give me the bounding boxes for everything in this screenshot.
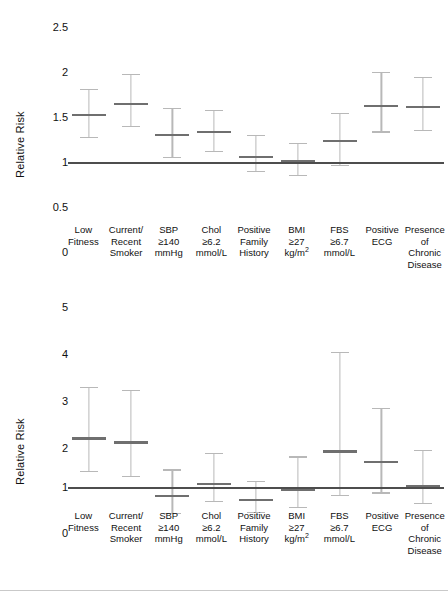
errorbar-whisker: [381, 72, 382, 131]
top-chart-category-family-history: PositiveFamilyHistory: [233, 224, 276, 259]
top-chart-ytick-2.5: 2.5: [34, 22, 68, 33]
errorbar-upper-cap: [80, 89, 98, 90]
category-line-1: Low: [62, 510, 105, 522]
category-line-1: BMI: [275, 510, 318, 522]
bottom-chart-category-labels: LowFitnessCurrent/RecentSmokerSBP≥140mmH…: [62, 510, 446, 556]
errorbar-lower-cap: [205, 151, 223, 152]
bottom-chart-ytick-1: 1: [34, 482, 68, 493]
errorbar-point-estimate: [197, 483, 231, 485]
errorbar-whisker: [214, 453, 215, 500]
category-line-2: Recent: [105, 236, 148, 248]
bottom-chart-plot-area: [68, 292, 444, 542]
top-chart-category-fbs: FBS≥6.7mmol/L: [318, 224, 361, 259]
errorbar-upper-cap: [289, 456, 307, 457]
errorbar-point-estimate: [114, 441, 148, 443]
top-chart-category-chol: Chol≥6.2mmol/L: [190, 224, 233, 259]
errorbar-lower-cap: [331, 495, 349, 496]
category-line-3: mmol/L: [190, 533, 233, 545]
category-line-2: ≥6.2: [190, 236, 233, 248]
errorbar-lower-cap: [247, 171, 265, 172]
category-line-2: of Chronic: [403, 236, 446, 259]
errorbar-lower-cap: [122, 126, 140, 127]
errorbar-upper-cap: [247, 481, 265, 482]
category-line-3: History: [233, 247, 276, 259]
category-line-3: mmol/L: [190, 247, 233, 259]
errorbar-whisker: [255, 135, 256, 171]
errorbar-upper-cap: [205, 453, 223, 454]
errorbar-lower-cap: [372, 492, 390, 493]
errorbar-upper-cap: [414, 450, 432, 451]
top-chart-category-chronic-disease: Presenceof ChronicDisease: [403, 224, 446, 270]
errorbar-upper-cap: [163, 469, 181, 470]
category-line-3: Smoker: [105, 247, 148, 259]
top-chart-category-low-fitness: LowFitness: [62, 224, 105, 247]
errorbar-lower-cap: [372, 131, 390, 132]
bottom-chart-ytick-5: 5: [34, 302, 68, 313]
errorbar-upper-cap: [80, 387, 98, 388]
errorbar-upper-cap: [372, 408, 390, 409]
category-line-2: ≥27: [275, 522, 318, 534]
category-line-2: ≥6.7: [318, 522, 361, 534]
errorbar-whisker: [381, 408, 382, 493]
top-chart-category-labels: LowFitnessCurrent/RecentSmokerSBP≥140mmH…: [62, 224, 446, 270]
errorbar-lower-cap: [289, 175, 307, 176]
errorbar-point-estimate: [197, 131, 231, 133]
category-line-3: Disease: [403, 545, 446, 557]
category-line-1: Presence: [403, 510, 446, 522]
category-line-1: Current/: [105, 510, 148, 522]
top-chart-y-axis-label: Relative Risk: [14, 90, 26, 200]
category-line-1: Low: [62, 224, 105, 236]
category-line-3: History: [233, 533, 276, 545]
top-chart-ytick-2: 2: [34, 67, 68, 78]
category-line-1: FBS: [318, 224, 361, 236]
bottom-chart-reference-line: [68, 487, 444, 489]
errorbar-lower-cap: [122, 476, 140, 477]
bottom-chart-category-chronic-disease: Presenceof ChronicDisease: [403, 510, 446, 556]
errorbar-whisker: [172, 469, 173, 513]
category-superscript: 2: [305, 532, 309, 539]
errorbar-point-estimate: [323, 450, 357, 452]
errorbar-upper-cap: [289, 143, 307, 144]
errorbar-point-estimate: [72, 437, 106, 439]
category-line-1: Chol: [190, 510, 233, 522]
errorbar-point-estimate: [155, 134, 189, 136]
category-line-2: ECG: [361, 522, 404, 534]
errorbar-whisker: [130, 390, 131, 476]
top-chart-category-bmi: BMI≥27kg/m2: [275, 224, 318, 259]
errorbar-point-estimate: [155, 495, 189, 497]
bottom-chart-ytick-2: 2: [34, 443, 68, 454]
errorbar-upper-cap: [163, 108, 181, 109]
category-line-1: FBS: [318, 510, 361, 522]
errorbar-whisker: [297, 456, 298, 507]
errorbar-whisker: [255, 481, 256, 512]
errorbar-point-estimate: [364, 461, 398, 463]
errorbar-whisker: [297, 143, 298, 175]
errorbar-upper-cap: [247, 135, 265, 136]
category-line-2: ≥140: [147, 236, 190, 248]
errorbar-point-estimate: [239, 499, 273, 501]
top-chart: Relative Risk 2.5 2 1.5 1 0.5 0 LowFitne…: [0, 0, 448, 290]
errorbar-whisker: [88, 89, 89, 137]
errorbar-whisker: [339, 113, 340, 165]
top-chart-ytick-1.5: 1.5: [34, 112, 68, 123]
errorbar-point-estimate: [281, 489, 315, 491]
top-chart-ytick-0.5: 0.5: [34, 202, 68, 213]
category-line-1: Current/: [105, 224, 148, 236]
errorbar-whisker: [423, 450, 424, 503]
category-line-2: Family: [233, 236, 276, 248]
category-line-3: kg/m2: [275, 533, 318, 545]
category-line-3: mmHg: [147, 247, 190, 259]
bottom-chart-category-bmi: BMI≥27kg/m2: [275, 510, 318, 545]
category-line-2: Fitness: [62, 522, 105, 534]
top-chart-category-current-smoker: Current/RecentSmoker: [105, 224, 148, 259]
category-line-1: Presence: [403, 224, 446, 236]
errorbar-lower-cap: [414, 130, 432, 131]
category-line-3: mmol/L: [318, 247, 361, 259]
category-line-1: Positive: [233, 510, 276, 522]
errorbar-whisker: [130, 74, 131, 126]
errorbar-upper-cap: [331, 352, 349, 353]
errorbar-point-estimate: [364, 105, 398, 107]
bottom-chart: Relative Risk 5 4 3 2 1 0 LowFitnessCurr…: [0, 292, 448, 592]
category-line-2: ≥27: [275, 236, 318, 248]
category-line-2: ≥6.2: [190, 522, 233, 534]
